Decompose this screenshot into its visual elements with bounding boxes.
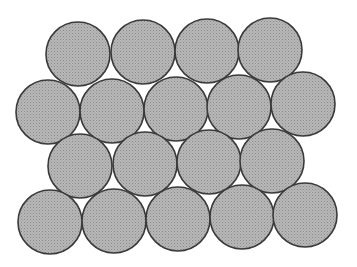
circle-r1-c2 xyxy=(111,20,175,84)
circle-group xyxy=(16,18,337,254)
circle-r4-c1 xyxy=(18,190,82,254)
circle-r2-c1 xyxy=(16,80,80,144)
circle-r3-c1 xyxy=(48,134,112,198)
circle-r4-c2 xyxy=(82,189,146,253)
circle-r1-c1 xyxy=(46,22,110,86)
circle-r2-c4 xyxy=(207,75,271,139)
circle-r3-c3 xyxy=(177,130,241,194)
circle-r2-c5 xyxy=(271,72,335,136)
circle-r3-c2 xyxy=(113,132,177,196)
circle-r4-c4 xyxy=(210,185,274,249)
circle-r1-c3 xyxy=(175,19,239,83)
circle-r3-c4 xyxy=(240,129,304,193)
circle-packing-diagram xyxy=(0,0,357,267)
circle-r4-c3 xyxy=(146,187,210,251)
circle-r1-c4 xyxy=(238,18,302,82)
circle-r4-c5 xyxy=(273,183,337,247)
